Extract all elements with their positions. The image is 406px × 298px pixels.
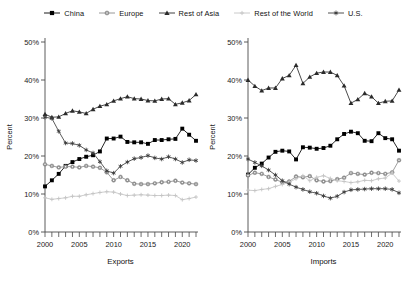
circle-marker xyxy=(98,8,116,18)
y-axis: 0%10%20%30%40%50% xyxy=(24,38,45,237)
y-axis-title: Percent xyxy=(208,124,217,149)
legend-label: U.S. xyxy=(348,9,363,18)
plot-area-imports: 0%10%20%30%40%50%20002005201020152020Imp… xyxy=(203,26,406,298)
series-europe xyxy=(246,158,401,184)
legend-label: Europe xyxy=(119,9,143,18)
figure-container: ChinaEuropeRest of AsiaRest of the World… xyxy=(0,0,406,298)
star-marker xyxy=(327,8,345,18)
x-tick-label: 2005 xyxy=(71,240,87,249)
x-tick-label: 2010 xyxy=(308,240,324,249)
legend-item-u-s[interactable]: U.S. xyxy=(327,8,363,18)
exports-panel: 0%10%20%30%40%50%20002005201020152020Exp… xyxy=(0,26,203,298)
x-axis: 20002005201020152020 xyxy=(240,232,401,249)
series-rest-of-the-world xyxy=(43,190,198,202)
y-tick-label: 0% xyxy=(231,228,242,237)
plot-area-exports: 0%10%20%30%40%50%20002005201020152020Exp… xyxy=(0,26,203,298)
chart-panels: 0%10%20%30%40%50%20002005201020152020Exp… xyxy=(0,26,406,298)
x-axis-title: Imports xyxy=(311,257,337,266)
x-axis-title: Exports xyxy=(107,257,134,266)
x-tick-label: 2000 xyxy=(240,240,256,249)
y-tick-label: 20% xyxy=(227,152,242,161)
legend-label: Rest of Asia xyxy=(179,9,220,18)
series-rest-of-asia xyxy=(43,92,199,119)
y-tick-label: 40% xyxy=(227,76,242,85)
legend-item-rest-of-the-world[interactable]: Rest of the World xyxy=(233,8,313,18)
imports-panel: 0%10%20%30%40%50%20002005201020152020Imp… xyxy=(203,26,406,298)
y-tick-label: 10% xyxy=(24,190,39,199)
y-axis: 0%10%20%30%40%50% xyxy=(227,38,248,237)
x-axis: 20002005201020152020 xyxy=(37,232,198,249)
x-tick-label: 2015 xyxy=(140,240,156,249)
y-axis-title: Percent xyxy=(5,124,14,149)
legend-item-rest-of-asia[interactable]: Rest of Asia xyxy=(158,8,220,18)
y-tick-label: 50% xyxy=(227,38,242,47)
legend-label: China xyxy=(64,9,84,18)
y-tick-label: 30% xyxy=(24,114,39,123)
legend-item-china[interactable]: China xyxy=(43,8,84,18)
x-tick-label: 2010 xyxy=(105,240,121,249)
series-rest-of-asia xyxy=(246,63,402,105)
y-tick-label: 50% xyxy=(24,38,39,47)
triangle-marker xyxy=(158,8,176,18)
x-tick-label: 2015 xyxy=(343,240,359,249)
y-tick-label: 10% xyxy=(227,190,242,199)
plus-marker xyxy=(233,8,251,18)
x-tick-label: 2020 xyxy=(174,240,190,249)
y-tick-label: 30% xyxy=(227,114,242,123)
y-tick-label: 20% xyxy=(24,152,39,161)
legend-item-europe[interactable]: Europe xyxy=(98,8,143,18)
square-marker xyxy=(43,8,61,18)
y-tick-label: 40% xyxy=(24,76,39,85)
x-tick-label: 2000 xyxy=(37,240,53,249)
legend-label: Rest of the World xyxy=(254,9,313,18)
x-tick-label: 2005 xyxy=(274,240,290,249)
y-tick-label: 0% xyxy=(28,228,39,237)
chart-legend: ChinaEuropeRest of AsiaRest of the World… xyxy=(0,0,406,26)
x-tick-label: 2020 xyxy=(377,240,393,249)
